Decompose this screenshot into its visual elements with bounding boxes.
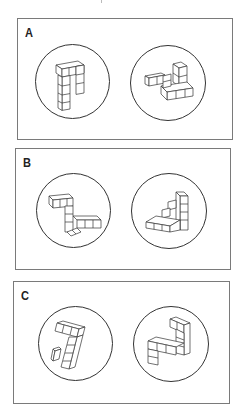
panel-c: C — [13, 281, 230, 404]
panel-label-b: B — [23, 155, 31, 170]
panel-label-a: A — [25, 25, 33, 40]
block-figure-a-left-icon — [36, 45, 111, 120]
block-figure-b-right-icon — [132, 174, 208, 250]
circle-b-right — [131, 173, 207, 249]
block-figure-c-left-icon — [39, 307, 114, 382]
circle-a-left — [35, 44, 110, 119]
scan-mark — [101, 0, 102, 3]
panel-label-c: C — [21, 288, 29, 303]
block-figure-c-right-icon — [134, 307, 210, 383]
block-figure-a-right-icon — [131, 46, 207, 122]
circle-c-right — [133, 306, 209, 382]
panel-b: B — [15, 148, 231, 270]
panel-a: A — [17, 18, 233, 140]
circle-a-right — [130, 45, 206, 121]
circle-b-left — [36, 173, 111, 248]
circle-c-left — [38, 306, 113, 381]
block-figure-b-left-icon — [37, 174, 112, 249]
